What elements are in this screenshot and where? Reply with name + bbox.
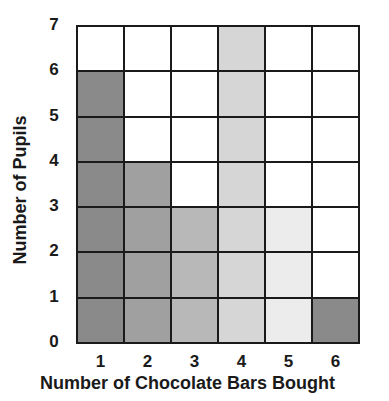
bar-cell	[77, 298, 124, 343]
gridline-horizontal	[76, 70, 360, 72]
gridline-horizontal	[76, 161, 360, 163]
y-tick-label: 5	[42, 106, 66, 126]
bar-cell	[171, 252, 218, 297]
bar-cell	[77, 252, 124, 297]
bar-cell	[218, 162, 265, 207]
x-tick-label: 5	[265, 352, 312, 372]
bar-cell	[218, 252, 265, 297]
y-tick-label: 0	[42, 332, 66, 352]
bar-cell	[171, 207, 218, 252]
bar-cell	[124, 252, 171, 297]
bar-cell	[171, 298, 218, 343]
bar-cell	[77, 207, 124, 252]
x-tick-label: 4	[218, 352, 265, 372]
bar-cell	[124, 298, 171, 343]
bar-cell	[124, 162, 171, 207]
bar-cell	[77, 71, 124, 116]
bar-cell	[77, 117, 124, 162]
bar-cell	[218, 71, 265, 116]
y-tick-label: 1	[42, 287, 66, 307]
bar-cell	[265, 252, 312, 297]
bar-cell	[124, 207, 171, 252]
gridline-horizontal	[76, 342, 360, 344]
bar-cell	[312, 298, 359, 343]
bar-cell	[265, 298, 312, 343]
gridline-horizontal	[76, 116, 360, 118]
x-axis-label: Number of Chocolate Bars Bought	[40, 373, 389, 394]
gridline-horizontal	[76, 206, 360, 208]
y-axis-label: Number of Pupils	[10, 115, 31, 264]
bar-cell	[218, 26, 265, 71]
bar-cell	[218, 207, 265, 252]
x-tick-label: 2	[124, 352, 171, 372]
y-tick-label: 3	[42, 196, 66, 216]
x-tick-label: 1	[77, 352, 124, 372]
bar-cell	[265, 207, 312, 252]
y-tick-label: 4	[42, 151, 66, 171]
y-tick-label: 2	[42, 241, 66, 261]
bar-chart: Number of Pupils 01234567 123456 Number …	[0, 0, 389, 401]
gridline-horizontal	[76, 297, 360, 299]
plot-area	[77, 26, 359, 343]
bar-cell	[218, 117, 265, 162]
x-tick-label: 6	[312, 352, 359, 372]
y-tick-label: 6	[42, 60, 66, 80]
gridline-horizontal	[76, 251, 360, 253]
gridline-horizontal	[76, 25, 360, 27]
bar-cell	[77, 162, 124, 207]
y-tick-label: 7	[42, 15, 66, 35]
bar-cell	[218, 298, 265, 343]
x-tick-label: 3	[171, 352, 218, 372]
